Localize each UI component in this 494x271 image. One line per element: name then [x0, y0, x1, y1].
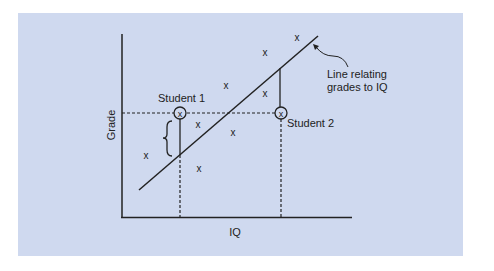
svg-text:x: x — [178, 109, 183, 119]
student2-marker: x — [275, 107, 287, 119]
annotation-arrow — [316, 47, 348, 67]
diagram-canvas: x x x x x x x x x x Student 1 Student 2 … — [0, 0, 494, 271]
svg-text:x: x — [279, 109, 284, 119]
regression-line — [139, 36, 318, 190]
student1-marker: x — [174, 107, 186, 119]
annotation-line2: grades to IQ — [327, 81, 388, 93]
data-point: x — [144, 150, 149, 161]
residual-brace — [163, 121, 172, 156]
student2-label: Student 2 — [287, 117, 334, 129]
data-point: x — [295, 32, 300, 43]
data-point: x — [231, 127, 236, 138]
student1-label: Student 1 — [158, 92, 205, 104]
data-point: x — [196, 119, 201, 130]
data-point: x — [197, 163, 202, 174]
annotation-line1: Line relating — [327, 68, 387, 80]
data-point: x — [263, 88, 268, 99]
data-point: x — [224, 80, 229, 91]
x-axis-label: IQ — [229, 226, 241, 238]
y-axis-label: Grade — [105, 110, 117, 141]
data-point: x — [263, 47, 268, 58]
